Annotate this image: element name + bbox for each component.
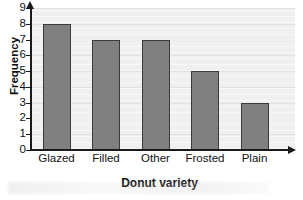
y-axis-line — [30, 8, 32, 150]
bar-other — [142, 40, 170, 150]
gridline — [30, 8, 295, 9]
bar-filled — [92, 40, 120, 150]
bar-plain — [241, 103, 269, 150]
y-tick — [26, 87, 31, 88]
y-tick — [26, 134, 31, 135]
bar-chart-figure: 0123456789 GlazedFilledOtherFrostedPlain… — [0, 0, 303, 200]
y-tick — [26, 150, 31, 151]
scan-artifact — [8, 182, 268, 194]
y-tick — [26, 55, 31, 56]
y-axis-title: Frequency — [8, 16, 20, 116]
y-tick — [26, 24, 31, 25]
y-tick — [26, 71, 31, 72]
y-tick-label: 1 — [6, 128, 26, 140]
y-tick — [26, 118, 31, 119]
scan-band — [30, 16, 295, 17]
bar-glazed — [43, 24, 71, 150]
x-axis-line — [30, 149, 289, 151]
plot-area — [30, 8, 295, 150]
y-tick — [26, 103, 31, 104]
scan-band — [30, 10, 295, 11]
y-tick — [26, 8, 31, 9]
bar-frosted — [191, 71, 219, 150]
y-tick-label: 9 — [6, 2, 26, 14]
y-tick — [26, 40, 31, 41]
x-tick-label-plain: Plain — [215, 153, 295, 165]
